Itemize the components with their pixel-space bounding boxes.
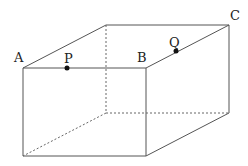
cuboid-svg: A P B Q C	[0, 0, 248, 166]
edge-BC	[146, 25, 229, 68]
label-C: C	[230, 8, 240, 23]
label-Q: Q	[169, 35, 180, 50]
hidden-edge-bottom-left-depth	[23, 113, 106, 156]
cuboid-diagram: A P B Q C	[0, 0, 248, 166]
label-P: P	[64, 51, 73, 66]
visible-edges	[23, 25, 229, 156]
label-A: A	[13, 50, 24, 65]
hidden-edges	[23, 25, 229, 156]
label-B: B	[137, 50, 147, 65]
point-P	[65, 66, 70, 71]
edge-bottom-right-depth	[146, 113, 229, 156]
